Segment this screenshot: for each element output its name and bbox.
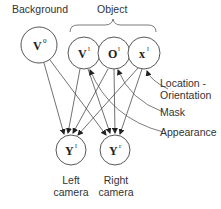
edge-vl-yr (88, 69, 110, 133)
edge-xl-yr (120, 69, 142, 134)
edges (44, 60, 142, 135)
appearance-label: Appearance (160, 126, 217, 138)
node-yl: Y l (56, 135, 86, 165)
node-ol-symbol: O (108, 47, 117, 61)
appearance-pointer (90, 70, 163, 132)
node-xl-symbol: x (139, 47, 145, 61)
node-ol: O l (98, 37, 130, 69)
graphical-model-diagram: V 0 V l O l x l Y l Y r Background Objec… (0, 0, 221, 209)
node-xl-sup: l (147, 45, 149, 53)
node-v0-sup: 0 (43, 37, 47, 45)
right-camera-label-line1: Right (104, 174, 129, 186)
node-v0: V 0 (21, 27, 57, 63)
background-label: Background (12, 3, 68, 15)
left-camera-label-line2: camera (53, 186, 88, 198)
edge-ol-yr (114, 69, 115, 133)
right-camera-label-line2: camera (98, 186, 133, 198)
location-orientation-label-line2: Orientation (160, 89, 212, 101)
node-vl-symbol: V (78, 47, 87, 61)
node-v0-symbol: V (33, 39, 42, 53)
node-yl-sup: l (75, 142, 77, 150)
node-vl-sup: l (88, 45, 90, 53)
edge-v0-yl (44, 63, 64, 134)
node-vl: V l (68, 37, 100, 69)
node-ol-sup: l (118, 45, 120, 53)
node-yr: Y r (100, 135, 130, 165)
location-orientation-label-line1: Location - (160, 77, 207, 89)
mask-pointer (118, 70, 163, 112)
node-yl-symbol: Y (65, 144, 74, 158)
left-camera-label-line1: Left (62, 174, 80, 186)
object-brace (70, 19, 156, 32)
object-label: Object (97, 3, 127, 15)
mask-label: Mask (160, 106, 186, 118)
edge-xl-yl (78, 68, 138, 135)
node-xl: x l (128, 37, 160, 69)
node-yr-symbol: Y (109, 144, 118, 158)
